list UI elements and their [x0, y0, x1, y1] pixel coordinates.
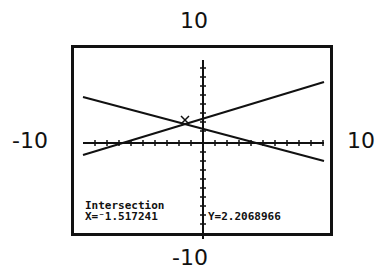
ymin-label: -10	[172, 245, 208, 270]
calculator-screen: Intersection X=⁻1.517241 Y=2.2068966	[71, 45, 333, 236]
cursor-icon	[181, 116, 189, 124]
ymax-label: 10	[180, 8, 208, 33]
y-readout: Y=2.2068966	[208, 211, 281, 222]
x-readout: X=⁻1.517241	[85, 211, 158, 222]
xmin-label: -10	[12, 128, 48, 153]
xmax-label: 10	[347, 128, 375, 153]
